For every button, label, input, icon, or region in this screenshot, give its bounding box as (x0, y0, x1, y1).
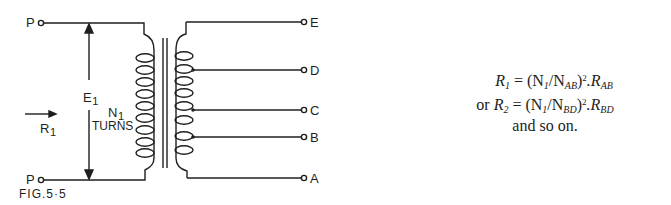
resistance-letter: R (40, 121, 50, 136)
eq2-tail-sub: BD (600, 104, 613, 115)
voltage-label: E1 (83, 91, 99, 104)
primary-lead-top (44, 23, 154, 50)
eq2-den-sub: BD (563, 104, 576, 115)
terminal-label-p-bottom: P (26, 173, 35, 186)
eq2-lhs: R (494, 96, 504, 113)
eq1-lhs: R (495, 72, 505, 89)
equation-line-3: and so on. (380, 118, 671, 134)
eq2-prefix: or (476, 96, 493, 113)
eq2-equals: = (N (512, 96, 542, 113)
turns-n-label: N1 (108, 106, 125, 119)
terminal-d (301, 67, 306, 72)
equations-block: R1 = (N1/NAB)2.RAB or R2 = (N1/NBD)2.RBD… (380, 70, 671, 134)
transformer-diagram (0, 0, 340, 205)
terminal-p-bottom (38, 177, 43, 182)
equation-line-2: or R2 = (N1/NBD)2.RBD (380, 94, 671, 118)
input-resistance-arrow-icon (25, 111, 56, 117)
eq1-den-sub: AB (565, 80, 577, 91)
eq1-slash: /N (549, 72, 565, 89)
resistance-label: R1 (40, 122, 57, 135)
eq1-tail-sub: AB (601, 80, 613, 91)
terminal-label-p-top: P (26, 16, 35, 29)
eq1-tail: .R (587, 72, 601, 89)
eq2-tail: .R (587, 96, 601, 113)
eq2-lhs-sub: 2 (503, 104, 508, 115)
eq1-lhs-sub: 1 (505, 80, 510, 91)
terminal-a (301, 175, 306, 180)
tap-label-d: D (310, 64, 320, 77)
primary-lead-bottom (44, 158, 154, 180)
primary-coil (136, 50, 154, 158)
terminal-p-top (38, 20, 43, 25)
terminal-c (301, 107, 306, 112)
equation-line-1: R1 = (N1/NAB)2.RAB (380, 70, 671, 94)
terminal-e (301, 19, 306, 24)
tap-label-a: A (310, 172, 319, 185)
secondary-coil (175, 22, 193, 178)
resistance-sub: 1 (50, 126, 57, 138)
voltage-letter: E (83, 90, 92, 105)
eq1-equals: = (N (514, 72, 544, 89)
voltage-sub: 1 (92, 95, 99, 107)
tap-label-e: E (310, 16, 319, 29)
turns-letter: N (108, 105, 118, 120)
turns-text-label: TURNS (92, 120, 133, 132)
figure-caption: FIG.5·5 (19, 188, 67, 200)
tap-label-b: B (310, 131, 319, 144)
tap-label-c: C (310, 104, 320, 117)
terminal-b (301, 134, 306, 139)
eq2-slash: /N (547, 96, 563, 113)
